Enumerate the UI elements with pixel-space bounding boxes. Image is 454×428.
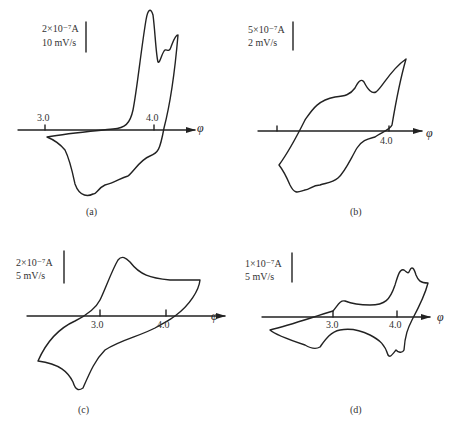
- panel-c-tick-label-3: 3.0: [91, 319, 104, 330]
- panel-d-axis-label: φ: [437, 310, 444, 325]
- panel-b-plot: [258, 22, 422, 192]
- panel-b-scan-rate: 2 mV/s: [248, 37, 277, 49]
- panel-d-caption: (d): [350, 404, 362, 415]
- panel-a-tick-label-4: 4.0: [146, 112, 159, 123]
- panel-d-tick-label-4: 4.0: [389, 319, 402, 330]
- panel-a-axis-label: φ: [197, 121, 204, 136]
- panel-b-scale-current: 5×10⁻⁷A: [248, 24, 285, 36]
- panel-c-axis-label: φ: [211, 309, 218, 324]
- panel-c-tick-label-4: 4.0: [157, 319, 170, 330]
- panel-b-axis-label: φ: [426, 126, 433, 141]
- panel-c-cv-curve: [38, 257, 200, 389]
- panel-b-cv-curve: [279, 59, 406, 192]
- panel-d-cv-curve: [270, 268, 428, 356]
- panel-d-scale-current: 1×10⁻⁷A: [245, 258, 282, 270]
- panel-b-tick-label-4: 4.0: [380, 135, 393, 146]
- panel-b-caption: (b): [350, 206, 362, 217]
- panel-c-plot: [27, 251, 225, 390]
- panel-d-tick-label-3: 3.0: [326, 319, 339, 330]
- panel-c-scan-rate: 5 mV/s: [16, 270, 45, 282]
- panel-d-plot: [262, 253, 430, 356]
- panel-a-tick-label-3: 3.0: [37, 112, 50, 123]
- panel-c-scale-current: 2×10⁻⁷A: [16, 257, 53, 269]
- figure-canvas: [0, 0, 454, 428]
- panel-a-scan-rate: 10 mV/s: [42, 37, 76, 49]
- panel-c-caption: (c): [78, 404, 89, 415]
- panel-a-caption: (a): [86, 206, 97, 217]
- panel-a-scale-current: 2×10⁻⁷A: [42, 23, 79, 35]
- panel-d-scan-rate: 5 mV/s: [245, 271, 274, 283]
